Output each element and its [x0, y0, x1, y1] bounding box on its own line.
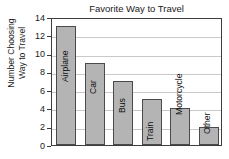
y-axis-tick-label: 2 — [27, 123, 45, 132]
bars-layer — [52, 19, 221, 145]
plot-area — [51, 18, 222, 146]
chart-title: Favorite Way to Travel — [51, 3, 222, 14]
y-axis-tick-mark — [47, 146, 51, 147]
y-axis-tick-label: 12 — [27, 32, 45, 41]
y-axis-tick-label: 8 — [27, 68, 45, 77]
bar-category-label: Train — [146, 122, 155, 141]
bar-category-label: Motorcycle — [175, 74, 184, 116]
y-axis-tick-label: 14 — [27, 14, 45, 23]
bar-category-label: Bus — [118, 98, 127, 113]
y-axis-tick-label: 6 — [27, 87, 45, 96]
bar-category-label: Airplane — [61, 51, 70, 83]
bar-category-label: Other — [203, 112, 212, 134]
y-axis-tick-label: 10 — [27, 50, 45, 59]
bar — [85, 63, 105, 145]
y-axis-title-line-1: Number Choosing — [6, 18, 17, 87]
y-axis-tick-labels: 14121086420 — [27, 0, 45, 159]
y-axis-tick-label: 0 — [27, 142, 45, 151]
bar — [113, 81, 133, 145]
y-axis-tick-label: 4 — [27, 105, 45, 114]
bar — [56, 26, 76, 145]
bar-chart: Favorite Way to Travel Number Choosing W… — [0, 0, 229, 159]
bar-category-label: Car — [89, 81, 98, 95]
